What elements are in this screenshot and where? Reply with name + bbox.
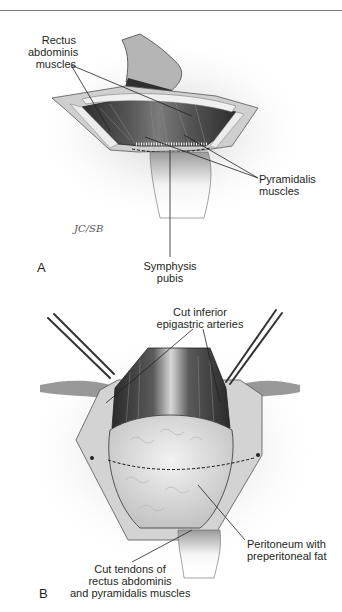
label-rectus-abdominis: Rectus abdominis muscles [28,34,76,70]
label-line: pubis [140,272,200,284]
label-line: Peritoneum with [247,538,327,550]
label-line: muscles [259,185,316,197]
panel-letter-b: B [39,586,48,601]
label-pyramidalis: Pyramidalis muscles [259,173,316,197]
label-line: epigastric arteries [150,318,250,330]
label-line: muscles [28,58,76,70]
label-line: Cut inferior [150,306,250,318]
artist-signature: JC/SB [72,223,103,234]
label-line: Pyramidalis [259,173,316,185]
label-line: Cut tendons of [70,563,190,575]
label-line: rectus abdominis [70,575,190,587]
label-peritoneum: Peritoneum with preperitoneal fat [247,538,327,562]
label-line: Symphysis [140,260,200,272]
label-cut-tendons: Cut tendons of rectus abdominis and pyra… [70,563,190,599]
label-line: abdominis [28,46,76,58]
label-line: Rectus [28,34,76,46]
panel-letter-a: A [37,260,46,275]
label-line: and pyramidalis muscles [70,587,190,599]
label-symphysis-pubis: Symphysis pubis [140,260,200,284]
label-cut-inferior-epigastric-arteries: Cut inferior epigastric arteries [150,306,250,330]
label-line: preperitoneal fat [247,550,327,562]
